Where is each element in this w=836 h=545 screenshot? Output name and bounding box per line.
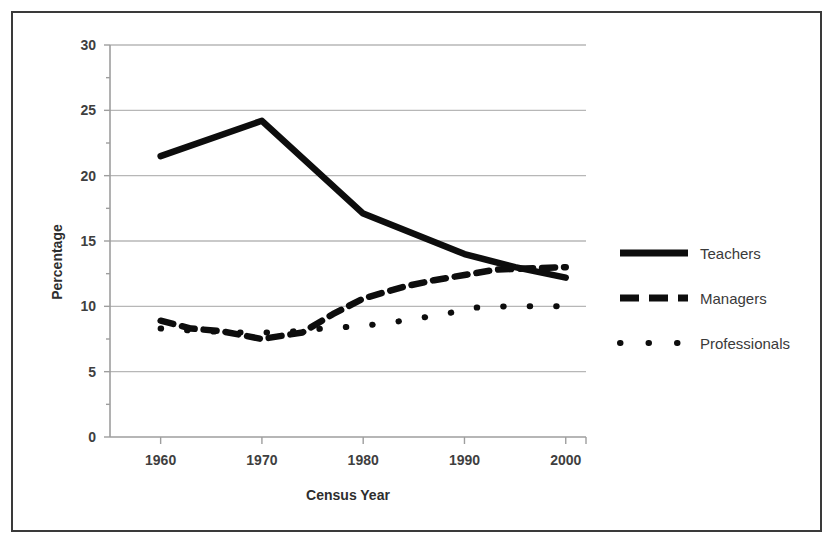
y-tick-label: 0 (88, 429, 96, 445)
y-tick-label: 5 (88, 364, 96, 380)
x-axis-tick-labels: 19601970198019902000 (145, 452, 581, 468)
line-chart: 051015202530 19601970198019902000 Percen… (0, 0, 836, 545)
legend-label-professionals: Professionals (700, 335, 790, 352)
y-tick-label: 10 (80, 298, 96, 314)
x-tick-label: 1960 (145, 452, 176, 468)
x-tick-label: 2000 (550, 452, 581, 468)
legend-label-teachers: Teachers (700, 245, 761, 262)
y-axis-title: Percentage (49, 224, 65, 300)
x-axis-title: Census Year (306, 487, 390, 503)
y-tick-label: 25 (80, 102, 96, 118)
x-tick-label: 1990 (449, 452, 480, 468)
gridlines (110, 45, 586, 372)
y-tick-label: 30 (80, 37, 96, 53)
axis-ticks (104, 45, 586, 444)
y-axis-tick-labels: 051015202530 (80, 37, 96, 445)
legend: TeachersManagersProfessionals (620, 245, 790, 352)
y-tick-label: 20 (80, 168, 96, 184)
series-line-professionals (161, 306, 566, 332)
y-tick-label: 15 (80, 233, 96, 249)
x-tick-label: 1980 (348, 452, 379, 468)
legend-label-managers: Managers (700, 290, 767, 307)
series-line-teachers (161, 121, 566, 278)
series-line-managers (161, 267, 566, 339)
x-tick-label: 1970 (246, 452, 277, 468)
